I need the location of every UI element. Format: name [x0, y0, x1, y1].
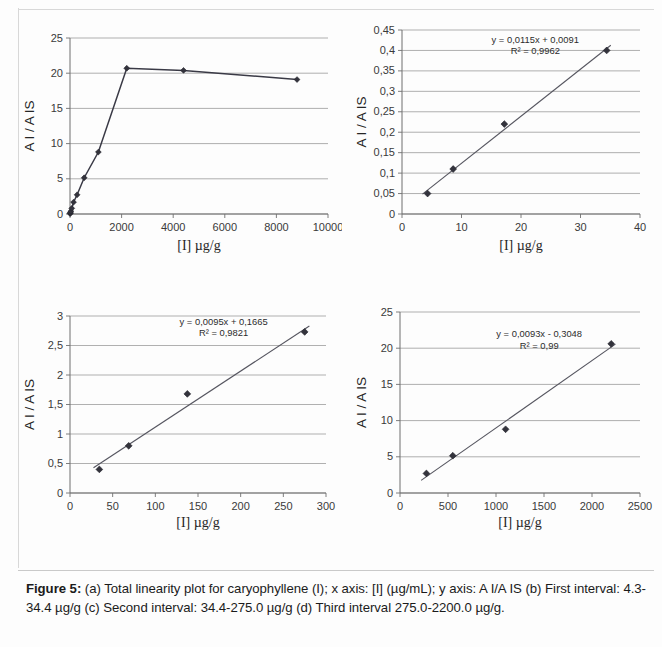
x-tick-label: 40: [634, 221, 646, 233]
equation-label: y = 0,0095x + 0,1665: [180, 316, 268, 327]
y-tick-label: 0,5: [48, 457, 63, 469]
y-tick-label: 0: [389, 208, 395, 220]
x-tick-label: 150: [189, 500, 207, 512]
y-tick-label: 0,3: [380, 85, 395, 97]
x-tick-label: 2000: [580, 500, 604, 512]
caption-body: (a) Total linearity plot for caryophylle…: [26, 581, 646, 615]
y-tick-label: 0: [57, 208, 63, 220]
panel-b-first-interval: 00,050,10,150,20,250,30,350,40,450102030…: [342, 8, 656, 300]
x-axis-title: [I] µg/g: [176, 515, 219, 530]
data-point-marker: [124, 65, 130, 71]
y-tick-label: 25: [51, 32, 63, 44]
x-tick-label: 200: [231, 500, 249, 512]
data-point-marker: [74, 192, 80, 198]
data-point-marker: [181, 67, 187, 73]
y-tick-label: 0,15: [374, 146, 395, 158]
y-tick-label: 0,25: [374, 105, 395, 117]
data-point-marker: [501, 121, 508, 128]
y-tick-label: 2: [57, 369, 63, 381]
figure-caption: Figure 5: (a) Total linearity plot for c…: [26, 580, 646, 617]
x-tick-label: 250: [274, 500, 292, 512]
x-tick-label: 10000: [313, 221, 342, 233]
y-axis-title: A I / A IS: [22, 379, 37, 430]
panel-c-second-interval: 00,511,522,53050100150200250300y = 0,009…: [8, 300, 342, 575]
x-tick-label: 2000: [109, 221, 133, 233]
data-point-marker: [449, 452, 456, 459]
y-tick-label: 20: [381, 342, 393, 354]
data-point-marker: [294, 77, 300, 83]
regression-line: [421, 344, 615, 480]
r-squared-label: R² = 0,99: [520, 340, 559, 351]
data-point-marker: [95, 149, 101, 155]
equation-label: y = 0,0093x - 0,3048: [496, 328, 582, 339]
y-tick-label: 10: [51, 137, 63, 149]
data-point-marker: [184, 390, 191, 397]
chart-d: 051015202505001000150020002500y = 0,0093…: [342, 300, 656, 575]
x-axis-title: [I] µg/g: [177, 238, 220, 253]
data-point-marker: [301, 329, 308, 336]
caption-divider: [18, 570, 654, 571]
x-tick-label: 1000: [484, 500, 508, 512]
y-tick-label: 0,1: [380, 167, 395, 179]
x-tick-label: 0: [67, 221, 73, 233]
x-tick-label: 20: [515, 221, 527, 233]
x-axis-title: [I] µg/g: [498, 515, 541, 530]
data-point-marker: [71, 199, 77, 205]
chart-b: 00,050,10,150,20,250,30,350,40,450102030…: [342, 8, 656, 300]
y-tick-label: 0,2: [380, 126, 395, 138]
panel-d-third-interval: 051015202505001000150020002500y = 0,0093…: [342, 300, 656, 575]
y-tick-label: 0,45: [374, 24, 395, 36]
panel-grid: 05101520250200040006000800010000A I / A …: [0, 0, 662, 575]
y-tick-label: 25: [381, 306, 393, 318]
caption-label: Figure 5:: [26, 581, 81, 596]
y-tick-label: 0: [57, 487, 63, 499]
x-tick-label: 4000: [161, 221, 185, 233]
y-tick-label: 15: [381, 378, 393, 390]
x-tick-label: 50: [107, 500, 119, 512]
x-tick-label: 30: [574, 221, 586, 233]
y-tick-label: 20: [51, 67, 63, 79]
x-tick-label: 0: [397, 500, 403, 512]
y-tick-label: 0: [387, 487, 393, 499]
r-squared-label: R² = 0,9821: [199, 327, 248, 338]
x-tick-label: 0: [399, 221, 405, 233]
regression-line: [422, 45, 610, 194]
panel-a-total-linearity: 05101520250200040006000800010000A I / A …: [8, 8, 342, 300]
data-point-marker: [424, 190, 431, 197]
equation-label: y = 0,0115x + 0,0091: [492, 34, 579, 45]
chart-a: 05101520250200040006000800010000A I / A …: [8, 8, 342, 300]
y-tick-label: 0,05: [374, 187, 395, 199]
x-tick-label: 1500: [532, 500, 556, 512]
y-axis-title: A I / A IS: [354, 96, 369, 147]
y-axis-title: A I / A IS: [22, 100, 37, 151]
y-tick-label: 1: [57, 428, 63, 440]
y-tick-label: 5: [57, 172, 63, 184]
r-squared-label: R² = 0,9962: [511, 45, 560, 56]
data-point-marker: [423, 470, 430, 477]
figure-container: 05101520250200040006000800010000A I / A …: [0, 0, 662, 647]
x-tick-label: 2500: [628, 500, 652, 512]
x-tick-label: 0: [67, 500, 73, 512]
x-tick-label: 500: [439, 500, 457, 512]
y-tick-label: 1,5: [48, 398, 63, 410]
data-point-marker: [608, 340, 615, 347]
y-tick-label: 5: [387, 450, 393, 462]
series-line: [70, 68, 297, 213]
data-point-marker: [81, 175, 87, 181]
data-point-marker: [603, 47, 610, 54]
y-tick-label: 0,4: [380, 44, 395, 56]
x-tick-label: 10: [455, 221, 467, 233]
chart-c: 00,511,522,53050100150200250300y = 0,009…: [8, 300, 342, 575]
y-tick-label: 10: [381, 414, 393, 426]
y-axis-title: A I / A IS: [354, 377, 369, 428]
x-tick-label: 100: [146, 500, 164, 512]
data-point-marker: [502, 426, 509, 433]
x-tick-label: 6000: [213, 221, 237, 233]
y-tick-label: 15: [51, 102, 63, 114]
y-tick-label: 0,35: [374, 64, 395, 76]
x-tick-label: 300: [317, 500, 335, 512]
y-tick-label: 2,5: [48, 339, 63, 351]
x-axis-title: [I] µg/g: [499, 238, 542, 253]
y-tick-label: 3: [57, 310, 63, 322]
x-tick-label: 8000: [264, 221, 288, 233]
